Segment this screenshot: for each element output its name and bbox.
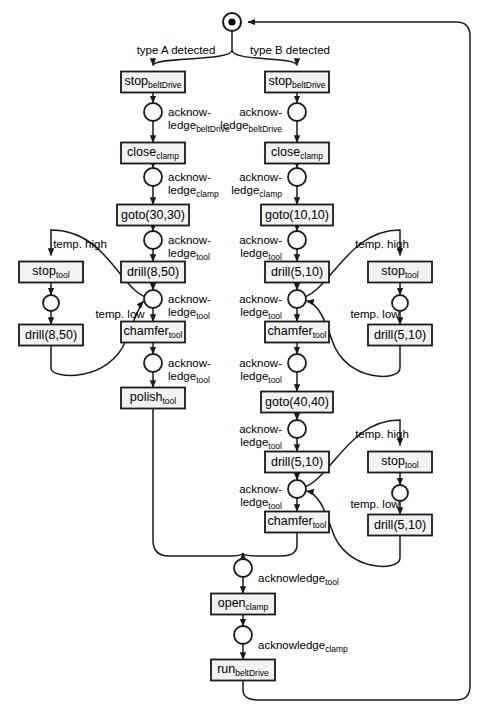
temp-high-right-2: temp. high [355, 428, 409, 441]
chamfer-tool-a-label: chamfertool [124, 324, 183, 341]
place-ack-tool-b2[interactable] [288, 290, 306, 308]
open-clamp-label: openclamp [218, 596, 269, 613]
label-ack-tool-a1: acknow-ledgetool [168, 234, 211, 263]
temp-low-left: temp. low [95, 308, 144, 321]
edge-chamfer-b2-to-final-place [243, 533, 297, 557]
branch-label-type-a: type A detected [137, 44, 216, 57]
goto-40-40-label: goto(40,40) [265, 395, 329, 409]
place-ack-tool-a3[interactable] [144, 354, 162, 372]
diagram-canvas: stopbeltDrivecloseclampgoto(30,30)drill(… [0, 0, 488, 710]
stop-tool-right-1-label: stoptool [381, 264, 418, 281]
label-ack-tool-b2: acknow-ledgetool [239, 293, 282, 322]
temp-low-right-2: temp. low [350, 498, 399, 511]
temp-low-right-1: temp. low [350, 308, 399, 321]
place-ack-tool-b4[interactable] [288, 420, 306, 438]
place-ack-beltdrive-b[interactable] [288, 103, 306, 121]
label-ack-tool-b3: acknow-ledgetool [239, 357, 282, 386]
place-ack-clamp-a[interactable] [144, 168, 162, 186]
close-clamp-b-label: closeclamp [271, 145, 323, 162]
stop-beltdrive-a-label: stopbeltDrive [124, 74, 181, 91]
edge-polish-to-final-place [153, 409, 243, 557]
label-ack-clamp-a: acknow-ledgeclamp [168, 171, 219, 200]
goto-30-30-label: goto(30,30) [121, 208, 185, 222]
close-clamp-a-label: closeclamp [127, 145, 179, 162]
stop-tool-right-2-label: stoptool [381, 454, 418, 471]
place-ack-tool-b1[interactable] [288, 231, 306, 249]
label-ack-clamp-b: acknow-ledgeclamp [231, 171, 282, 200]
drill-5-10-right-2-label: drill(5,10) [374, 518, 426, 532]
drill-8-50-main-label: drill(8,50) [127, 265, 179, 279]
temp-high-left: temp. high [53, 238, 107, 251]
drill-5-10-b2-label: drill(5,10) [271, 455, 323, 469]
place-ack-clamp-final[interactable] [234, 626, 252, 644]
label-ack-tool-a2: acknow-ledgetool [168, 293, 211, 322]
place-ack-tool-final[interactable] [234, 559, 252, 577]
branch-label-type-b: type B detected [250, 44, 330, 57]
label-ack-tool-final: acknowledgetool [258, 572, 339, 589]
temp-high-right-1: temp. high [355, 238, 409, 251]
label-ack-tool-a3: acknow-ledgetool [168, 357, 211, 386]
place-ack-clamp-b[interactable] [288, 168, 306, 186]
place-ack-tool-b5[interactable] [288, 480, 306, 498]
stop-beltdrive-b-label: stopbeltDrive [268, 74, 325, 91]
label-ack-tool-b1: acknow-ledgetool [239, 234, 282, 263]
drill-5-10-b1-label: drill(5,10) [271, 265, 323, 279]
label-ack-tool-b4: acknow-ledgetool [239, 423, 282, 452]
place-left-loop[interactable] [43, 295, 59, 311]
chamfer-tool-b1-label: chamfertool [268, 324, 327, 341]
label-ack-beltdrive-b: acknow-ledgebeltDrive [220, 106, 282, 135]
place-ack-tool-a1[interactable] [144, 231, 162, 249]
chamfer-tool-b2-label: chamfertool [268, 514, 327, 531]
polish-tool-a-label: polishtool [130, 390, 176, 407]
place-ack-beltdrive-a[interactable] [144, 103, 162, 121]
drill-5-10-right-1-label: drill(5,10) [374, 328, 426, 342]
label-ack-tool-b5: acknow-ledgetool [239, 483, 282, 512]
stop-tool-left-label: stoptool [32, 264, 69, 281]
start-place-token [228, 18, 235, 25]
label-ack-clamp-final: acknowledgeclamp [258, 639, 348, 656]
goto-10-10-label: goto(10,10) [265, 208, 329, 222]
drill-8-50-left-label: drill(8,50) [25, 328, 77, 342]
place-ack-tool-b3[interactable] [288, 354, 306, 372]
run-beltdrive-label: runbeltDrive [217, 662, 269, 679]
place-ack-tool-a2[interactable] [144, 290, 162, 308]
